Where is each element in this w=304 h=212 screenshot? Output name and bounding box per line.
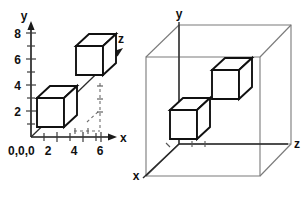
diagram-canvas: y x z 2 4 6 8 0,0,0 2 4 6: [0, 0, 304, 212]
right-x-axis-line: [143, 144, 179, 178]
near-cube-front-face: [37, 98, 64, 127]
bounding-box-edge-br: [260, 144, 291, 176]
left-y-axis-label: y: [21, 9, 28, 23]
left-near-cube: [37, 86, 77, 127]
y-axis-arrowhead: [27, 21, 34, 30]
left-y-axis: [26, 21, 36, 137]
y-tick-label-8: 8: [14, 27, 21, 41]
left-z-axis-label: z: [118, 32, 124, 46]
right-far-cube: [212, 58, 252, 99]
right-x-axis-label: x: [133, 169, 140, 183]
right-far-cube-front-face: [212, 70, 239, 99]
right-z-axis-label: z: [294, 137, 300, 151]
origin-label: 0,0,0: [8, 144, 35, 158]
right-near-cube: [170, 98, 210, 139]
x-tick-label-4: 4: [71, 144, 78, 158]
y-tick-label-2: 2: [14, 105, 21, 119]
right-y-axis-label: y: [176, 7, 183, 21]
right-near-cube-front-face: [170, 110, 197, 139]
bounding-box-edge-tr: [260, 25, 291, 57]
right-x-tick-1: [166, 143, 170, 147]
y-tick-label-4: 4: [14, 79, 21, 93]
x-axis-arrowhead: [108, 133, 117, 140]
x-tick-label-6: 6: [97, 144, 104, 158]
left-diagram: y x z 2 4 6 8 0,0,0 2 4 6: [8, 9, 127, 158]
left-x-axis: [31, 132, 117, 142]
right-diagram: y z x: [133, 7, 300, 183]
right-axes: [143, 22, 288, 178]
bounding-box-edge-tl: [146, 25, 179, 57]
left-x-axis-label: x: [120, 131, 127, 145]
bounding-box: [146, 25, 291, 176]
x-tick-label-2: 2: [45, 144, 52, 158]
y-tick-label-6: 6: [14, 53, 21, 67]
left-far-cube: [76, 34, 116, 75]
far-cube-front-face: [76, 46, 103, 75]
figure-root: y x z 2 4 6 8 0,0,0 2 4 6: [0, 0, 304, 212]
